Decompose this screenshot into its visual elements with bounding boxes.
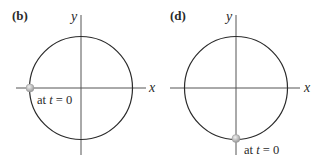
panel-b: (b) y x at t = 0 [12,8,156,155]
start-annotation: at t = 0 [37,93,72,107]
x-axis-label: x [303,80,311,95]
start-annotation: at t = 0 [244,143,279,157]
y-axis-label: y [69,9,78,24]
x-axis-label: x [148,80,156,95]
panel-label: (d) [170,8,186,23]
y-axis-label: y [224,9,233,24]
start-point [232,135,240,143]
diagram-canvas: (b) y x at t = 0 (d) y x at t = 0 [0,0,323,166]
panel-d: (d) y x at t = 0 [170,8,311,157]
panel-label: (b) [12,8,28,23]
start-point [26,84,34,92]
